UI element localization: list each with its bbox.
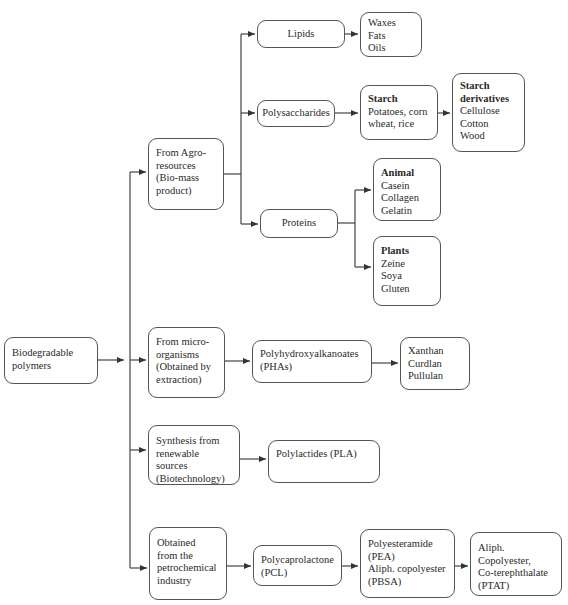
agro-line-3: (Bio-mass: [156, 172, 216, 185]
node-starch: Starch Potatoes, corn wheat, rice: [360, 85, 438, 140]
petro-line-2: from the: [157, 550, 219, 563]
lipids-label: Lipids: [288, 28, 315, 41]
plants-title: Plants: [381, 245, 433, 258]
pea-line-4: (PBSA): [368, 576, 447, 589]
animal-gelatin: Gelatin: [381, 205, 433, 218]
node-agro-resources: From Agro- resources (Bio-mass product): [148, 138, 224, 210]
derivative-cotton: Cotton: [460, 118, 517, 131]
polysaccharides-label: Polysaccharides: [262, 107, 330, 120]
starch-line-1: Potatoes, corn: [368, 106, 430, 119]
root-line-1: Biodegradable: [12, 347, 90, 360]
plants-soya: Soya: [381, 270, 433, 283]
plants-zeine: Zeine: [381, 258, 433, 271]
derivative-wood: Wood: [460, 130, 517, 143]
animal-casein: Casein: [381, 180, 433, 193]
example-curdlan: Curdlan: [408, 358, 462, 371]
ptat-line-1: Aliph.: [478, 542, 554, 555]
synthesis-line-1: Synthesis from: [156, 435, 232, 448]
animal-title: Animal: [381, 167, 433, 180]
pcl-line-2: (PCL): [261, 567, 334, 580]
pha-line-2: (PHAs): [260, 361, 364, 374]
node-pea-pbsa: Polyesteramide (PEA) Aliph. copolyester …: [360, 529, 455, 598]
node-pha: Polyhydroxyalkanoates (PHAs): [252, 340, 372, 383]
node-lipids: Lipids: [257, 20, 345, 48]
node-petrochemical: Obtained from the petrochemical industry: [149, 527, 227, 600]
root-line-2: polymers: [12, 360, 90, 373]
synthesis-line-3: (Biotechnology): [156, 473, 232, 486]
micro-line-1: From micro-: [156, 336, 217, 349]
petro-line-4: industry: [157, 575, 219, 588]
pla-line-1: Polylactides (PLA): [276, 448, 372, 461]
pha-line-1: Polyhydroxyalkanoates: [260, 348, 364, 361]
starch-title: Starch: [368, 93, 430, 106]
pcl-line-1: Polycaprolactone: [261, 554, 334, 567]
pea-line-2: (PEA): [368, 551, 447, 564]
agro-line-2: resources: [156, 160, 216, 173]
starch-derivatives-title-2: derivatives: [460, 93, 517, 106]
micro-line-2: organisms: [156, 349, 217, 362]
node-lipid-examples: Waxes Fats Oils: [360, 12, 422, 57]
node-starch-derivatives: Starch derivatives Cellulose Cotton Wood: [452, 73, 525, 152]
node-pha-examples: Xanthan Curdlan Pullulan: [400, 337, 470, 390]
node-pla: Polylactides (PLA): [268, 440, 380, 483]
agro-line-4: product): [156, 185, 216, 198]
node-micro-organisms: From micro- organisms (Obtained by extra…: [148, 327, 225, 398]
node-pcl: Polycaprolactone (PCL): [253, 545, 342, 586]
micro-line-3: (Obtained by: [156, 361, 217, 374]
synthesis-line-2: renewable sources: [156, 448, 232, 473]
ptat-line-4: (PTAT): [478, 580, 554, 593]
derivative-cellulose: Cellulose: [460, 105, 517, 118]
ptat-line-3: Co-terephthalate: [478, 567, 554, 580]
starch-derivatives-title-1: Starch: [460, 80, 517, 93]
petro-line-1: Obtained: [157, 537, 219, 550]
animal-collagen: Collagen: [381, 192, 433, 205]
node-ptat: Aliph. Copolyester, Co-terephthalate (PT…: [470, 532, 562, 596]
ptat-line-2: Copolyester,: [478, 555, 554, 568]
node-polysaccharides: Polysaccharides: [257, 100, 335, 127]
example-pullulan: Pullulan: [408, 370, 462, 383]
pea-line-1: Polyesteramide: [368, 538, 447, 551]
petro-line-3: petrochemical: [157, 562, 219, 575]
lipid-example-fats: Fats: [368, 30, 414, 43]
root-node-biodegradable-polymers: Biodegradable polymers: [4, 337, 98, 384]
micro-line-4: extraction): [156, 374, 217, 387]
node-proteins: Proteins: [260, 209, 338, 238]
agro-line-1: From Agro-: [156, 147, 216, 160]
plants-gluten: Gluten: [381, 283, 433, 296]
starch-line-2: wheat, rice: [368, 118, 430, 131]
lipid-example-waxes: Waxes: [368, 17, 414, 30]
pea-line-3: Aliph. copolyester: [368, 563, 447, 576]
node-animal-proteins: Animal Casein Collagen Gelatin: [373, 158, 441, 221]
proteins-label: Proteins: [282, 217, 316, 230]
example-xanthan: Xanthan: [408, 345, 462, 358]
lipid-example-oils: Oils: [368, 42, 414, 55]
node-plant-proteins: Plants Zeine Soya Gluten: [373, 236, 441, 306]
biodegradable-polymers-diagram: Biodegradable polymers From Agro- resour…: [0, 0, 568, 605]
node-synthesis-renewable: Synthesis from renewable sources (Biotec…: [148, 425, 240, 485]
